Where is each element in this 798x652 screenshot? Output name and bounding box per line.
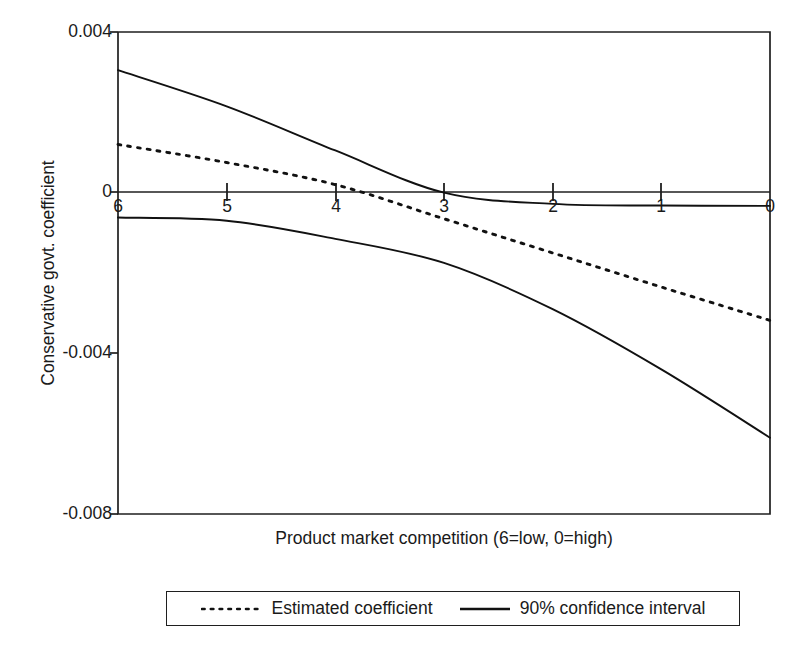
plot-frame bbox=[118, 32, 770, 514]
x-axis-title: Product market competition (6=low, 0=hig… bbox=[118, 528, 770, 549]
y-tick-marks bbox=[110, 32, 118, 514]
chart-figure: Conservative govt. coefficient 0.004 0 -… bbox=[0, 0, 798, 652]
data-curves bbox=[118, 70, 770, 438]
dotted-line-icon bbox=[201, 605, 263, 613]
x-tick-label: 0 bbox=[750, 198, 790, 216]
legend-label: Estimated coefficient bbox=[272, 600, 433, 618]
legend-label: 90% confidence interval bbox=[520, 600, 706, 618]
solid-line-icon bbox=[459, 605, 511, 613]
series-line bbox=[118, 144, 770, 320]
x-tick-label: 5 bbox=[207, 198, 247, 216]
legend-item-estimated-coefficient: Estimated coefficient bbox=[188, 600, 446, 618]
plot-area bbox=[0, 0, 798, 652]
x-tick-label: 1 bbox=[641, 198, 681, 216]
series-line bbox=[118, 218, 770, 438]
x-tick-label: 2 bbox=[533, 198, 573, 216]
x-tick-label: 4 bbox=[316, 198, 356, 216]
legend-item-confidence-interval: 90% confidence interval bbox=[446, 600, 719, 618]
x-tick-label: 3 bbox=[424, 198, 464, 216]
x-tick-label: 6 bbox=[98, 198, 138, 216]
chart-legend: Estimated coefficient 90% confidence int… bbox=[166, 591, 740, 626]
